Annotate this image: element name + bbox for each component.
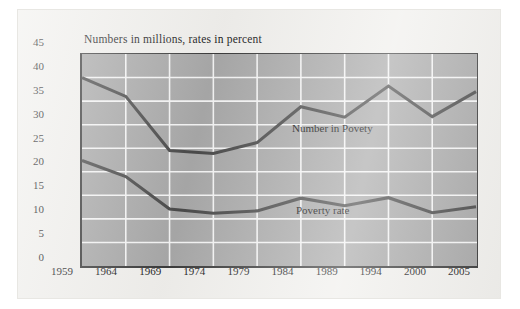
x-axis-tick-label: 1969: [127, 265, 173, 277]
x-axis-tick-label: 1984: [260, 265, 306, 277]
series-lines: [82, 54, 477, 266]
x-axis-tick-label: 2005: [436, 265, 482, 277]
y-axis-tick-label: 5: [0, 227, 44, 239]
x-axis-tick-label: 1989: [304, 265, 350, 277]
plot-area: [80, 53, 478, 268]
series-line: [82, 78, 476, 154]
y-axis-tick-label: 20: [0, 155, 44, 167]
x-axis-tick-label: 1964: [83, 265, 129, 277]
series-annotation: Poverty rate: [296, 204, 349, 216]
y-axis-tick-label: 25: [0, 132, 44, 144]
y-axis-tick-label: 45: [0, 36, 44, 48]
figure-frame: Numbers in millions, rates in percent 05…: [18, 10, 500, 298]
y-axis-tick-label: 15: [0, 179, 44, 191]
y-axis-tick-label: 30: [0, 108, 44, 120]
series-line: [82, 160, 476, 213]
chart-title: Numbers in millions, rates in percent: [84, 33, 262, 45]
x-axis-tick-label: 2000: [392, 265, 438, 277]
y-axis-tick-label: 40: [0, 60, 44, 72]
y-axis-tick-label: 0: [0, 251, 44, 263]
y-axis-tick-label: 35: [0, 84, 44, 96]
x-axis-tick-label: 1994: [348, 265, 394, 277]
x-axis-tick-label: 1979: [215, 265, 261, 277]
figure-page: Numbers in millions, rates in percent 05…: [0, 0, 520, 309]
x-axis-tick-label: 1974: [171, 265, 217, 277]
y-axis-tick-label: 10: [0, 203, 44, 215]
x-axis-tick-label: 1959: [39, 265, 85, 277]
series-annotation: Number in Povety: [292, 122, 373, 134]
